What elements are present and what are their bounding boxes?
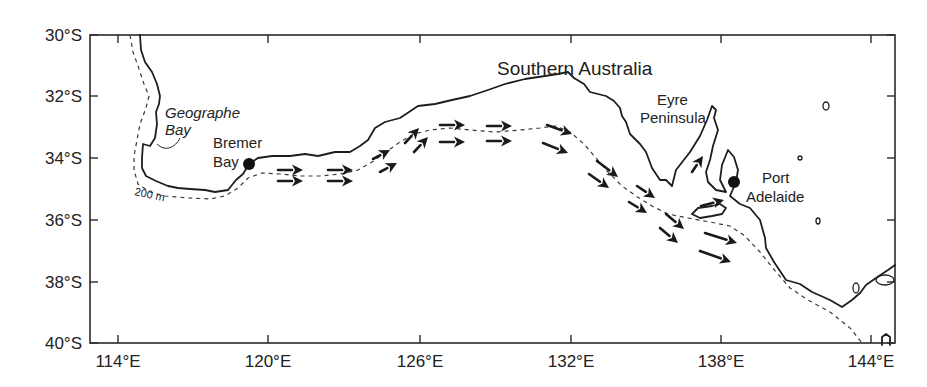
current-arrow <box>278 165 303 176</box>
arrow-head-icon <box>292 165 303 176</box>
arrow-head-icon <box>692 156 703 168</box>
lon-tick-label: 132°E <box>548 352 595 371</box>
arrow-head-icon <box>454 137 465 148</box>
current-arrow <box>405 128 419 143</box>
island-outline <box>798 156 802 160</box>
arrow-head-icon <box>643 187 655 198</box>
label-eyre-peninsula-line2: Peninsula <box>640 109 707 126</box>
current-arrow <box>597 161 618 177</box>
lon-tick-label: 126°E <box>397 352 444 371</box>
current-arrows <box>278 120 737 264</box>
arrow-shaft <box>637 186 646 192</box>
current-arrow <box>637 186 655 198</box>
city-marker-port-adelaide <box>728 176 740 188</box>
lat-tick-label: 40°S <box>45 334 82 353</box>
islands <box>798 102 894 293</box>
arrow-shaft <box>705 233 727 240</box>
arrow-shaft <box>629 202 638 207</box>
lon-tick-label: 144°E <box>848 352 895 371</box>
arrow-shaft <box>589 174 600 182</box>
lat-tick-label: 38°S <box>45 273 82 292</box>
city-marker-bremer-bay <box>243 158 255 170</box>
kangaroo-island-coastline <box>692 204 726 218</box>
label-bremer-bay-line2: Bay <box>213 153 239 170</box>
label-port-adelaide-line1: Port <box>762 169 790 186</box>
current-arrow <box>660 228 678 243</box>
arrow-head-icon <box>342 176 353 187</box>
arrow-shaft <box>660 228 670 236</box>
current-arrow <box>547 125 572 135</box>
label-eyre-peninsula-line1: Eyre <box>657 91 688 108</box>
arrow-shaft <box>373 155 380 159</box>
island-outline <box>876 275 894 285</box>
label-geographe-bay-line1: Geographe <box>165 104 240 121</box>
arrow-shaft <box>700 251 721 258</box>
current-arrow <box>373 150 390 160</box>
island-outline <box>823 102 829 110</box>
arrow-head-icon <box>501 136 512 147</box>
current-arrow <box>705 233 737 245</box>
arrow-head-icon <box>501 121 512 132</box>
current-arrow <box>440 137 465 148</box>
lon-tick-label: 138°E <box>698 352 745 371</box>
current-arrow <box>543 143 568 154</box>
lat-tick-label: 34°S <box>45 149 82 168</box>
current-arrow <box>414 137 428 152</box>
label-bremer-bay-line1: Bremer <box>213 134 262 151</box>
current-arrow <box>328 176 353 187</box>
arrow-head-icon <box>292 176 303 187</box>
arrow-head-icon <box>342 165 353 176</box>
geographe-leader-line <box>157 138 180 148</box>
current-arrow <box>380 163 397 173</box>
label-port-adelaide-line2: Adelaide <box>746 188 804 205</box>
lat-tick-label: 36°S <box>45 211 82 230</box>
arrow-shaft <box>380 168 387 172</box>
map-title: Southern Australia <box>497 58 653 79</box>
current-arrow <box>700 251 731 264</box>
southern-australia-map: 30°S32°S34°S36°S38°S40°S114°E120°E126°E1… <box>0 0 927 387</box>
current-arrow <box>629 202 647 213</box>
arrow-shaft <box>543 143 558 149</box>
current-arrow <box>487 121 512 132</box>
arrow-shaft <box>692 165 697 172</box>
current-arrow <box>278 176 303 187</box>
island-outline <box>853 283 859 293</box>
lon-tick-label: 120°E <box>245 352 292 371</box>
current-arrow <box>589 174 609 188</box>
lat-tick-label: 30°S <box>45 26 82 45</box>
arrow-shaft <box>405 136 411 143</box>
label-isobath-200m: 200 m <box>134 185 166 203</box>
current-arrow <box>692 156 703 172</box>
arrow-shaft <box>414 145 420 152</box>
arrow-head-icon <box>597 177 609 188</box>
lon-tick-label: 114°E <box>95 352 140 371</box>
island-outline <box>816 218 820 224</box>
city-markers <box>243 158 740 188</box>
current-arrow <box>487 136 512 147</box>
lat-tick-label: 32°S <box>45 87 82 106</box>
arrow-shaft <box>597 161 609 170</box>
label-geographe-bay-line2: Bay <box>165 121 192 138</box>
